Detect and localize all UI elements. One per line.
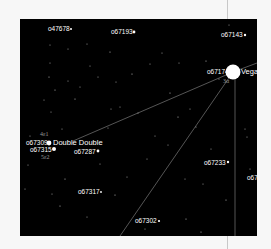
double-double-flamsteed-2: 5ε2 [41,154,50,160]
vega-name-label[interactable]: Vega [241,68,257,76]
star-field [20,19,257,236]
star-label[interactable]: o67193 [111,28,133,35]
star-label[interactable]: o67317 [78,188,100,195]
star-label[interactable]: o47678 [48,25,70,32]
star-label[interactable]: o67287 [74,148,96,155]
vega-catalog-label[interactable]: o67174 [207,68,229,75]
star-label[interactable]: o67 [247,174,257,181]
star-map[interactable]: o47678 o67193 o67143 o67174 Vega 3α 4ε1 … [20,19,257,236]
faint-stars [25,25,251,233]
double-double-flamsteed-1: 4ε1 [40,131,49,137]
star-label[interactable]: o67233 [204,159,226,166]
double-double-name-label[interactable]: Double Double [53,139,103,147]
double-double-catalog-2[interactable]: o67315 [30,146,52,153]
labeled-stars [47,28,247,222]
vega-flamsteed-label: 3α [223,78,229,84]
constellation-lines [73,63,257,236]
star-label[interactable]: o67302 [135,217,157,224]
double-double-catalog-1[interactable]: o67309 [26,139,48,146]
star-label[interactable]: o67143 [221,31,243,38]
